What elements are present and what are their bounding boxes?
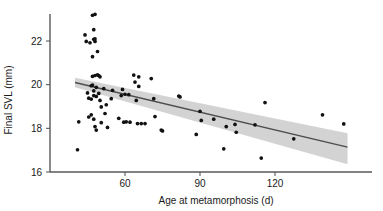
data-point bbox=[98, 99, 102, 103]
data-point bbox=[93, 125, 97, 129]
data-point bbox=[121, 88, 125, 92]
data-point bbox=[259, 156, 263, 160]
data-point bbox=[263, 101, 267, 105]
data-point bbox=[137, 85, 141, 89]
data-point bbox=[106, 126, 110, 130]
data-point bbox=[102, 87, 106, 91]
data-point bbox=[94, 85, 98, 89]
data-point bbox=[128, 120, 132, 124]
data-point bbox=[123, 92, 127, 96]
data-point bbox=[139, 122, 143, 126]
data-point bbox=[83, 33, 87, 37]
data-point bbox=[134, 99, 138, 103]
data-point bbox=[99, 121, 103, 125]
x-axis-title: Age at metamorphosis (d) bbox=[158, 195, 273, 206]
data-point bbox=[89, 97, 93, 101]
data-point bbox=[84, 40, 88, 44]
data-point bbox=[104, 103, 108, 107]
data-point bbox=[91, 83, 95, 87]
data-point bbox=[76, 148, 80, 152]
x-tick-label: 120 bbox=[267, 178, 284, 189]
data-point bbox=[99, 105, 103, 109]
data-point bbox=[152, 97, 156, 101]
data-point bbox=[127, 93, 131, 97]
data-point bbox=[97, 92, 101, 96]
confidence-band bbox=[75, 78, 348, 164]
data-point bbox=[88, 41, 92, 45]
x-tick-label: 90 bbox=[194, 178, 206, 189]
data-point bbox=[234, 130, 238, 134]
x-tick-label: 60 bbox=[119, 178, 131, 189]
data-point bbox=[149, 77, 153, 81]
data-point bbox=[137, 75, 141, 79]
data-point bbox=[342, 122, 346, 126]
data-point bbox=[198, 109, 202, 113]
data-point bbox=[109, 97, 113, 101]
data-point bbox=[212, 117, 216, 121]
data-point bbox=[111, 88, 115, 92]
data-point bbox=[89, 113, 93, 117]
data-point bbox=[233, 123, 237, 127]
data-point bbox=[222, 147, 226, 151]
data-point bbox=[194, 133, 198, 137]
y-tick-label: 22 bbox=[31, 36, 43, 47]
data-point bbox=[143, 122, 147, 126]
data-point bbox=[94, 95, 98, 99]
data-point bbox=[92, 89, 96, 93]
data-point bbox=[117, 116, 121, 120]
data-point bbox=[94, 128, 98, 132]
data-point bbox=[133, 80, 137, 84]
y-tick-label: 20 bbox=[31, 79, 43, 90]
y-tick-label: 18 bbox=[31, 123, 43, 134]
data-point bbox=[199, 119, 203, 123]
data-point bbox=[93, 13, 97, 17]
data-point bbox=[132, 73, 136, 77]
data-point bbox=[92, 28, 96, 32]
data-point bbox=[86, 91, 90, 95]
data-point bbox=[321, 113, 325, 117]
data-point bbox=[253, 123, 257, 127]
data-point bbox=[161, 129, 165, 133]
data-point bbox=[178, 95, 182, 99]
y-axis-ticks: 16182022 bbox=[31, 36, 50, 178]
data-point bbox=[292, 137, 296, 141]
data-point bbox=[119, 94, 123, 98]
data-point bbox=[96, 50, 100, 54]
data-point bbox=[92, 117, 96, 121]
data-point bbox=[93, 40, 97, 44]
y-tick-label: 16 bbox=[31, 167, 43, 178]
data-point bbox=[224, 125, 228, 129]
data-point bbox=[136, 122, 140, 126]
scatter-plot-figure: 6090120 16182022 Age at metamorphosis (d… bbox=[0, 0, 383, 211]
data-point bbox=[98, 75, 102, 79]
y-axis-title: Final SVL (mm) bbox=[3, 65, 14, 134]
regression-line bbox=[75, 82, 348, 147]
data-point bbox=[91, 55, 95, 59]
data-point bbox=[77, 120, 81, 124]
data-point bbox=[153, 115, 157, 119]
data-point bbox=[103, 112, 107, 116]
x-axis-ticks: 6090120 bbox=[119, 172, 283, 189]
data-point bbox=[124, 120, 128, 124]
chart-canvas: 6090120 16182022 Age at metamorphosis (d… bbox=[0, 0, 383, 211]
